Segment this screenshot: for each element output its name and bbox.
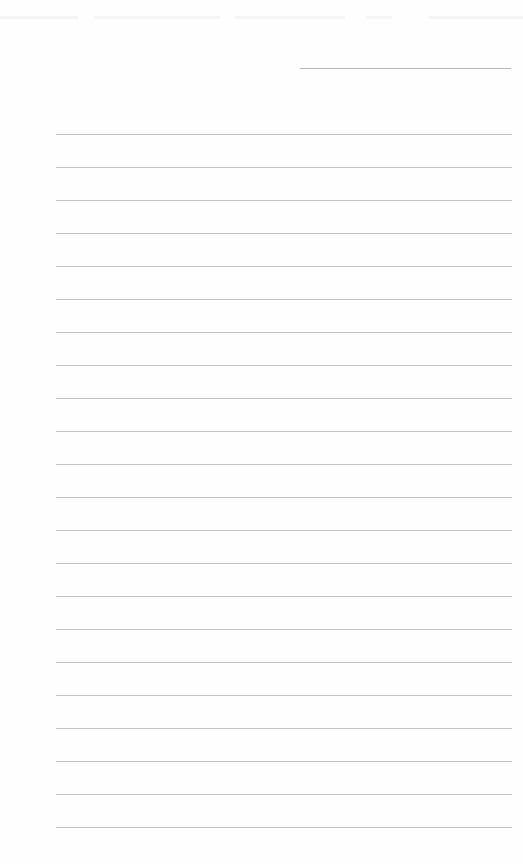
ruled-line bbox=[56, 134, 512, 135]
ruled-line bbox=[56, 761, 512, 762]
ruled-line bbox=[56, 827, 512, 828]
paper-page bbox=[0, 0, 523, 864]
ruled-line bbox=[56, 365, 512, 366]
ruled-line bbox=[56, 266, 512, 267]
ruled-line bbox=[56, 794, 512, 795]
ruled-line bbox=[56, 233, 512, 234]
ruled-line bbox=[56, 695, 512, 696]
ruled-lines-area bbox=[56, 0, 512, 864]
ruled-line bbox=[56, 530, 512, 531]
ruled-line bbox=[56, 497, 512, 498]
ruled-line bbox=[56, 200, 512, 201]
ruled-line bbox=[56, 332, 512, 333]
ruled-line bbox=[56, 464, 512, 465]
ruled-line bbox=[56, 662, 512, 663]
ruled-line bbox=[56, 596, 512, 597]
ruled-line bbox=[56, 398, 512, 399]
ruled-line bbox=[56, 728, 512, 729]
ruled-line bbox=[56, 431, 512, 432]
ruled-line bbox=[56, 563, 512, 564]
ruled-line bbox=[56, 629, 512, 630]
ruled-line bbox=[56, 299, 512, 300]
ruled-line bbox=[56, 167, 512, 168]
